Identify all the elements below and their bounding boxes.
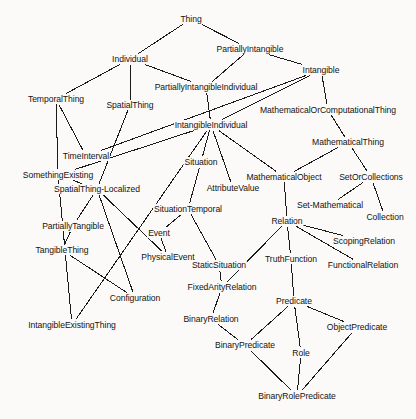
graph-node-situationtemporal[interactable]: SituationTemporal — [153, 204, 223, 214]
graph-node-tangiblething[interactable]: TangibleThing — [35, 245, 90, 255]
graph-node-temporalthing[interactable]: TemporalThing — [27, 94, 85, 104]
graph-node-mathematicalobject[interactable]: MathematicalObject — [245, 172, 322, 182]
graph-node-predicate[interactable]: Predicate — [275, 296, 313, 306]
graph-node-somethingexisting[interactable]: SomethingExisting — [22, 170, 94, 180]
graph-node-timeinterval[interactable]: TimeInterval — [62, 151, 110, 161]
graph-node-spatialthing[interactable]: SpatialThing — [105, 100, 154, 110]
graph-node-mathematicalorcomputationalthing[interactable]: MathematicalOrComputationalThing — [259, 105, 397, 115]
graph-node-configuration[interactable]: Configuration — [109, 293, 161, 303]
graph-node-individual[interactable]: Individual — [111, 54, 149, 64]
graph-node-functionalrelation[interactable]: FunctionalRelation — [327, 260, 399, 270]
graph-node-intangibleindividual[interactable]: IntangibleIndividual — [174, 120, 249, 130]
graph-node-binaryrolepredicate[interactable]: BinaryRolePredicate — [257, 391, 336, 401]
graph-node-fixedarityrelation[interactable]: FixedArityRelation — [187, 282, 258, 292]
graph-node-objectpredicate[interactable]: ObjectPredicate — [326, 322, 388, 332]
graph-node-binaryrelation[interactable]: BinaryRelation — [182, 314, 239, 324]
graph-node-partiallyintangibleindividual[interactable]: PartiallyIntangibleIndividual — [154, 82, 259, 92]
graph-node-event[interactable]: Event — [147, 228, 171, 238]
graph-node-intangible[interactable]: Intangible — [302, 65, 341, 75]
graph-node-collection[interactable]: Collection — [365, 212, 404, 222]
graph-node-truthfunction[interactable]: TruthFunction — [264, 254, 318, 264]
graph-node-binarypredicate[interactable]: BinaryPredicate — [214, 340, 276, 350]
graph-node-mathematicalthing[interactable]: MathematicalThing — [311, 137, 385, 147]
graph-node-set-mathematical[interactable]: Set-Mathematical — [296, 200, 364, 210]
graph-node-setorcollections[interactable]: SetOrCollections — [338, 172, 404, 182]
node-layer: ThingIndividualPartiallyIntangibleIntang… — [0, 0, 416, 419]
graph-node-staticsituation[interactable]: StaticSituation — [191, 260, 247, 270]
graph-node-attributevalue[interactable]: AttributeValue — [206, 183, 261, 193]
graph-node-role[interactable]: Role — [291, 348, 310, 358]
graph-node-spatialthing-localized[interactable]: SpatialThing-Localized — [53, 184, 141, 194]
graph-node-thing[interactable]: Thing — [179, 14, 202, 24]
graph-node-intangibleexistingthing[interactable]: IntangibleExistingThing — [27, 320, 117, 330]
graph-node-relation[interactable]: Relation — [270, 216, 303, 226]
diagram-canvas: ThingIndividualPartiallyIntangibleIntang… — [0, 0, 416, 419]
graph-node-scopingrelation[interactable]: ScopingRelation — [332, 236, 396, 246]
graph-node-situation[interactable]: Situation — [184, 157, 219, 167]
graph-node-partiallytangible[interactable]: PartiallyTangible — [41, 221, 105, 231]
graph-node-partiallyintangible[interactable]: PartiallyIntangible — [216, 44, 285, 54]
graph-node-physicalevent[interactable]: PhysicalEvent — [140, 252, 195, 262]
